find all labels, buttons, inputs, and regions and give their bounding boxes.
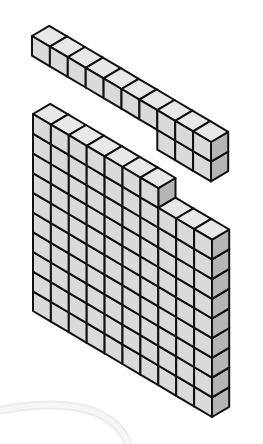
watermark-arc (0, 405, 128, 444)
blocks-canvas (0, 0, 263, 444)
